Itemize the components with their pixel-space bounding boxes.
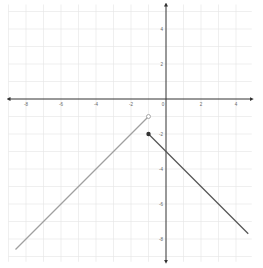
- x-tick-label: -6: [59, 102, 63, 107]
- y-tick-label: -8: [159, 237, 163, 242]
- piecewise-graph: -8-6-4-202442-2-4-6-8: [0, 0, 263, 268]
- x-tick-label: 2: [200, 102, 203, 107]
- x-tick-label: 0: [162, 102, 165, 107]
- x-tick-label: -2: [129, 102, 133, 107]
- x-tick-label: -8: [24, 102, 28, 107]
- closed-endpoint: [146, 132, 150, 136]
- data-series: [16, 115, 249, 250]
- y-tick-label: -6: [159, 202, 163, 207]
- y-tick-label: -2: [159, 132, 163, 137]
- x-tick-label: -4: [94, 102, 98, 107]
- x-tick-label: 4: [235, 102, 238, 107]
- grid-lines: [9, 5, 252, 262]
- y-tick-label: -4: [159, 167, 163, 172]
- axes: [9, 5, 252, 262]
- open-endpoint: [147, 115, 151, 119]
- segment-left: [16, 117, 149, 250]
- segment-right: [149, 134, 249, 234]
